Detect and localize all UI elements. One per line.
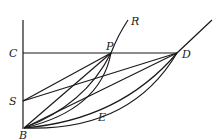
curve-bpr [24, 20, 128, 128]
geometry-diagram: C S B P R D E [0, 0, 223, 140]
label-p: P [105, 40, 114, 53]
label-c: C [9, 47, 18, 60]
label-s: S [9, 95, 17, 108]
label-e: E [97, 111, 106, 124]
label-d: D [181, 48, 191, 61]
label-b: B [18, 129, 27, 140]
label-r: R [130, 15, 139, 28]
line-sp [23, 53, 111, 101]
